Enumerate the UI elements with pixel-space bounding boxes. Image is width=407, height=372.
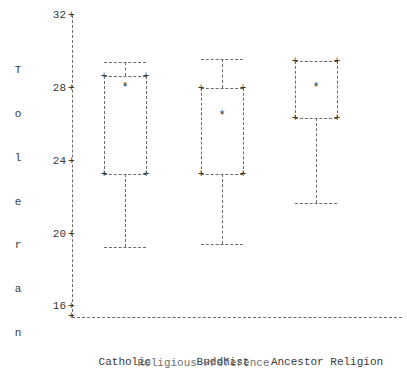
whisker-cap-lower (201, 244, 243, 245)
y-tick-label-32: 32 (36, 9, 66, 21)
box-top-q3 (104, 76, 146, 77)
box-side-left (295, 61, 296, 118)
y-axis-title-char: a (10, 282, 26, 297)
corner-marker: + (143, 169, 150, 180)
y-axis-title-char: T (10, 63, 26, 78)
whisker-lower (316, 118, 317, 203)
box-side-right (243, 88, 244, 174)
corner-marker: + (334, 113, 341, 124)
whisker-lower (222, 174, 223, 244)
whisker-cap-lower (104, 247, 146, 248)
y-tick-label-28: 28 (36, 82, 66, 94)
y-axis-title-char: l (10, 151, 26, 166)
corner-marker: + (240, 169, 247, 180)
corner-marker: + (198, 169, 205, 180)
median-marker: * (121, 82, 128, 94)
box-top-q3 (295, 61, 337, 62)
y-tick-label-24: 24 (36, 155, 66, 167)
y-tick-marker-20: + (68, 228, 75, 240)
box-top-q3 (201, 88, 243, 89)
whisker-lower (125, 174, 126, 247)
median-marker: * (218, 110, 225, 122)
box-plot-chart: T o l e r a n c e s c a l e + 32 + 28 + … (0, 0, 407, 372)
y-axis-title-char: n (10, 326, 26, 341)
whisker-cap-lower (295, 203, 337, 204)
corner-marker: + (292, 113, 299, 124)
y-axis-title-char: o (10, 107, 26, 122)
corner-marker: + (101, 169, 108, 180)
y-tick-label-16: 16 (36, 300, 66, 312)
box-side-right (146, 76, 147, 174)
y-tick-marker-24: + (68, 155, 75, 167)
box-side-right (337, 61, 338, 118)
box-side-left (104, 76, 105, 174)
y-tick-marker-32: + (68, 9, 75, 21)
median-marker: * (312, 82, 319, 94)
whisker-upper (222, 59, 223, 88)
y-axis-title: T o l e r a n c e s c a l e (10, 34, 26, 372)
y-axis-title-char: e (10, 195, 26, 210)
whisker-upper (125, 62, 126, 76)
y-axis-title-char: r (10, 238, 26, 253)
y-tick-marker-16: + (68, 300, 75, 312)
x-axis-line (72, 317, 402, 318)
y-tick-label-20: 20 (36, 228, 66, 240)
y-tick-marker-28: + (68, 82, 75, 94)
x-axis-title: Religious Preference (0, 357, 407, 369)
box-side-left (201, 88, 202, 174)
